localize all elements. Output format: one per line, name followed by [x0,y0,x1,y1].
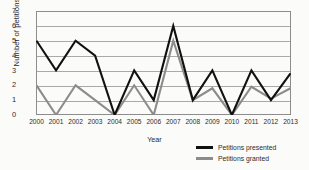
y-axis-tick-label: 1 [0,96,16,103]
y-axis-tick-label: 7 [0,7,16,14]
line-chart: Number of petitions 76543210 20002001200… [0,0,309,170]
x-axis-tick-label: 2013 [278,118,304,126]
series-line [37,26,291,115]
legend-label: Petitions presented [218,144,276,152]
legend-item[interactable]: Petitions presented [196,142,276,153]
y-axis-tick-label: 3 [0,67,16,74]
y-axis-tick-label: 0 [0,111,16,118]
y-axis-tick-label: 4 [0,52,16,59]
chart-legend: Petitions presentedPetitions granted [196,142,276,164]
series-layer [36,11,291,115]
x-axis-tick-labels: 2000200120022003200420052006200720082009… [36,118,291,129]
legend-swatch-icon [196,157,213,160]
legend-swatch-icon [196,146,213,149]
y-axis-tick-label: 2 [0,81,16,88]
y-axis-tick-label: 5 [0,37,16,44]
legend-label: Petitions granted [218,155,269,163]
series-line [37,41,291,115]
y-axis-tick-label: 6 [0,22,16,29]
legend-item[interactable]: Petitions granted [196,153,276,164]
